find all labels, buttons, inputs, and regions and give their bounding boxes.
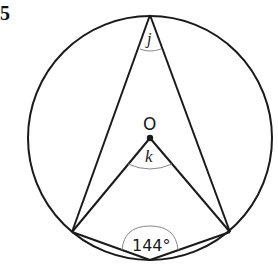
angle-label-j: j — [145, 30, 152, 48]
angle-label-144: 144° — [132, 236, 171, 255]
centre-label-o: O — [143, 114, 156, 134]
circle-theorem-diagram: j O k 144° — [0, 0, 278, 273]
radius-right — [150, 138, 230, 232]
centre-point — [147, 135, 153, 141]
angle-arc-j — [140, 49, 161, 51]
chord-top-right — [150, 15, 230, 232]
chord-top-left — [72, 15, 150, 232]
angle-label-k: k — [145, 147, 153, 166]
radius-left — [72, 138, 150, 232]
